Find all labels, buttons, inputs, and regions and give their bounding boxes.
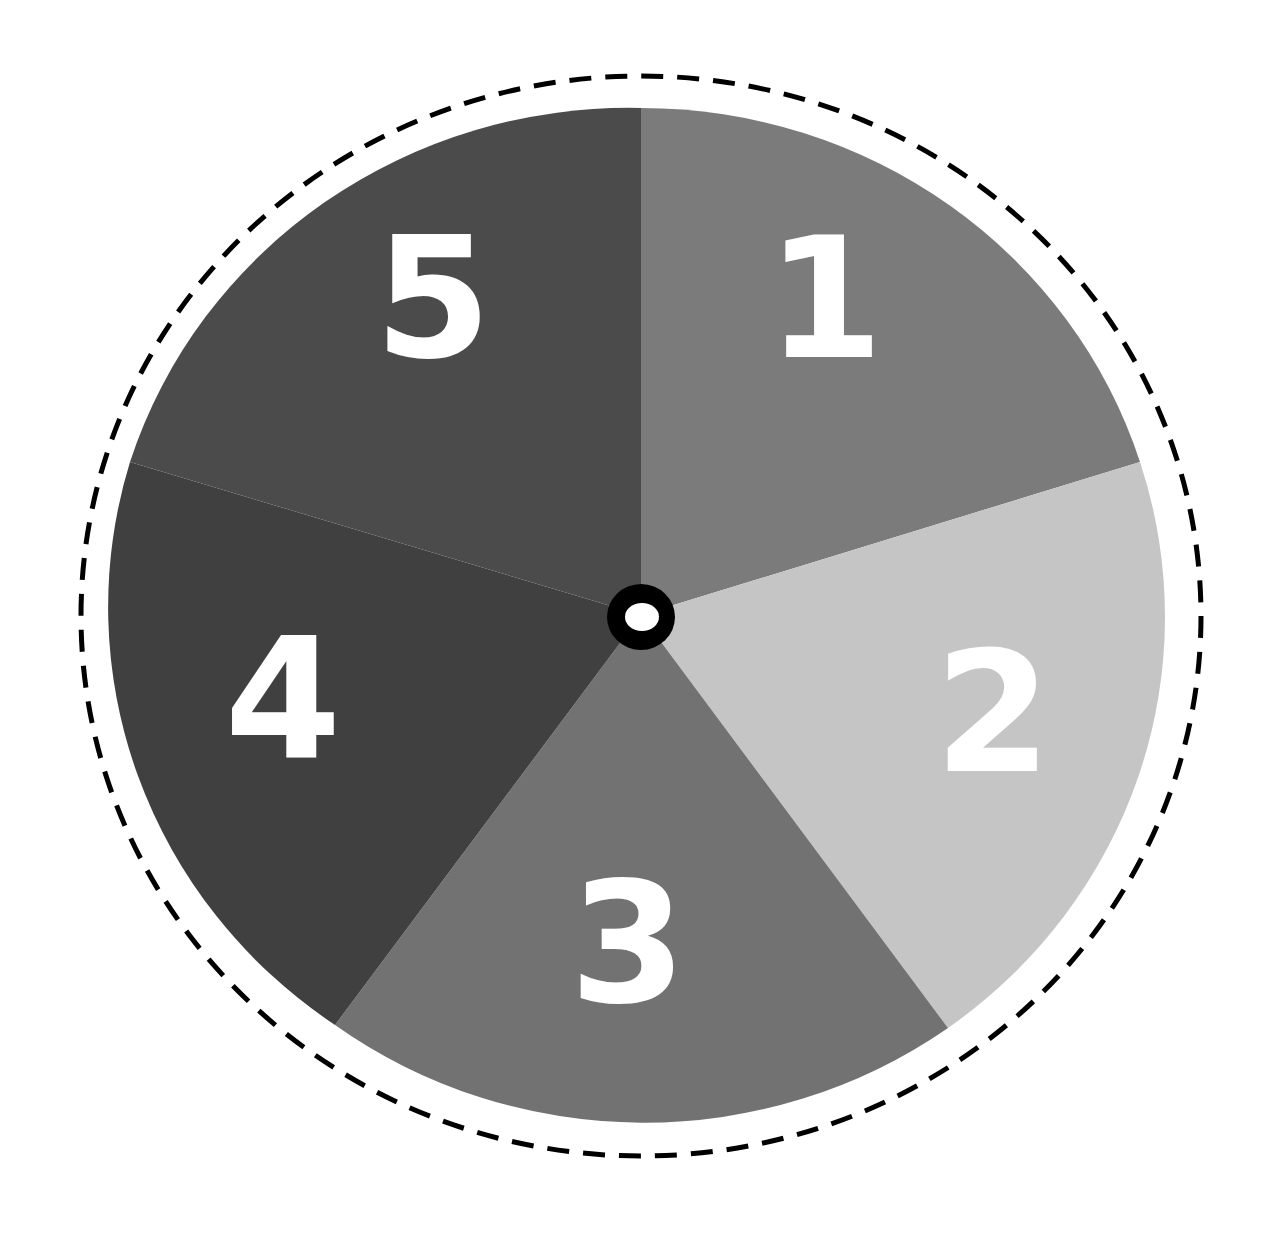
spinner-wheel: 1 2 3 4 5 <box>0 0 1274 1252</box>
slice-label-4: 4 <box>225 601 342 797</box>
slice-label-5: 5 <box>375 201 492 397</box>
center-hub <box>607 584 675 650</box>
slice-label-2: 2 <box>935 615 1052 811</box>
slice-label-3: 3 <box>570 846 687 1042</box>
slice-label-1: 1 <box>767 201 884 397</box>
hub-hole <box>625 603 659 631</box>
